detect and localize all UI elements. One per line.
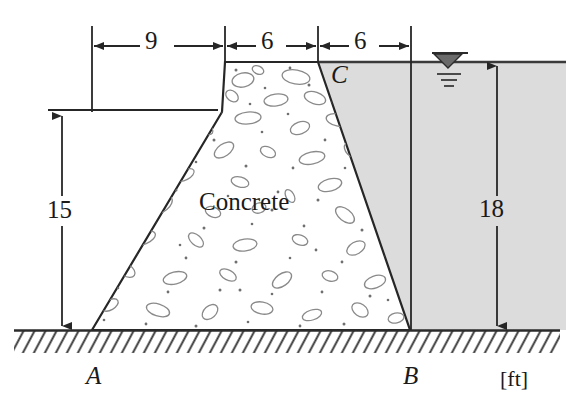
units-label: [ft] [500,366,528,392]
point-label-B: B [403,362,418,390]
dim-label-9: 9 [145,27,158,55]
dim-label-15: 15 [47,196,72,224]
ground-bedrock [14,331,560,354]
point-label-A: A [86,362,101,390]
figure-canvas: 9 6 6 15 18 Concrete A B C [ft] [0,0,566,417]
dim-label-18: 18 [479,195,504,223]
dim-label-6-right: 6 [354,27,367,55]
concrete-material-label: Concrete [199,188,289,216]
point-label-C: C [331,61,348,89]
dim-label-6-crest: 6 [261,27,274,55]
